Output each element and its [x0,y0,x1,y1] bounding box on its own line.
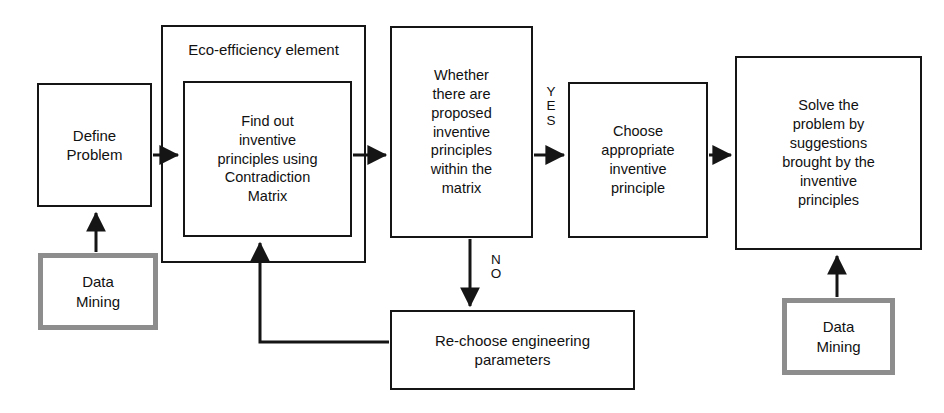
node-whether-proposed-principles-label: Whether there are proposed inventive pri… [426,66,497,198]
node-data-mining-right-label: Data Mining [811,317,865,356]
node-data-mining-right[interactable]: Data Mining [782,298,895,375]
node-choose-appropriate-principle[interactable]: Choose appropriate inventive principle [568,82,708,238]
node-solve-problem-label: Solve the problem by suggestions brought… [777,96,880,209]
node-rechoose-engineering-parameters[interactable]: Re-choose engineering parameters [390,310,635,390]
node-solve-problem[interactable]: Solve the problem by suggestions brought… [735,56,922,250]
node-define-problem-label: Define Problem [62,126,128,165]
node-whether-proposed-principles[interactable]: Whether there are proposed inventive pri… [390,26,533,238]
node-find-out-inventive-principles-label: Find out inventive principles using Cont… [213,112,323,206]
node-data-mining-left[interactable]: Data Mining [38,253,158,330]
branch-label-no: N O [485,253,507,282]
flowchart-canvas: Eco-efficiency element Define Problem Da… [0,0,944,413]
node-find-out-inventive-principles[interactable]: Find out inventive principles using Cont… [183,81,352,237]
node-data-mining-left-label: Data Mining [71,272,125,311]
node-rechoose-engineering-parameters-label: Re-choose engineering parameters [430,331,595,370]
node-choose-appropriate-principle-label: Choose appropriate inventive principle [596,122,679,197]
eco-efficiency-element-label: Eco-efficiency element [183,27,344,60]
node-define-problem[interactable]: Define Problem [37,83,152,207]
branch-label-yes: Y E S [540,85,562,128]
